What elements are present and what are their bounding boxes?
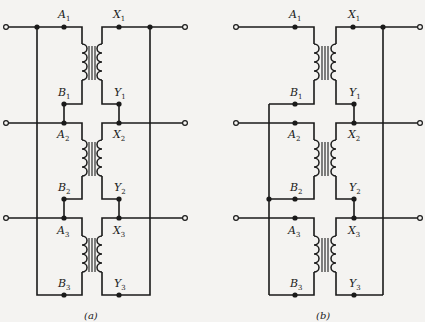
label-a1: A1	[288, 8, 301, 23]
transformer-2	[269, 123, 354, 199]
core-icon	[89, 46, 95, 80]
caption-b: (b)	[316, 310, 330, 321]
label-b1: B1	[289, 86, 303, 101]
transformer-1	[269, 27, 354, 104]
terminal	[418, 121, 423, 126]
label-a2: A2	[287, 128, 300, 143]
label-x1: X1	[347, 8, 360, 23]
transformer-3	[64, 218, 119, 295]
label-b2: B2	[57, 181, 71, 196]
terminal	[234, 216, 239, 221]
core-icon	[322, 142, 328, 176]
terminal	[183, 121, 188, 126]
terminal	[4, 25, 9, 30]
label-b1: B1	[57, 86, 71, 101]
terminal	[183, 25, 188, 30]
label-x2: X2	[347, 128, 360, 143]
label-a1: A1	[57, 8, 70, 23]
terminal	[183, 216, 188, 221]
terminal	[418, 25, 423, 30]
terminal	[234, 25, 239, 30]
panel-b: A1 X1 B1 Y1 A2 X2 B2 Y2 A3 X3 B3 Y3 (b)	[234, 8, 423, 321]
terminal	[4, 121, 9, 126]
terminal	[418, 216, 423, 221]
caption-a: (a)	[84, 310, 98, 321]
transformer-1	[64, 27, 119, 104]
label-x3: X3	[112, 224, 125, 239]
label-b3: B3	[289, 277, 303, 292]
label-y1: Y1	[349, 86, 361, 101]
label-y3: Y3	[114, 277, 126, 292]
transformer-2	[64, 123, 119, 199]
panel-a: A1 X1 B1 Y1 A2 X2 B2 Y2 A3 X3 B3 Y3 (a)	[4, 8, 188, 321]
core-icon	[322, 46, 328, 80]
transformer-3	[269, 218, 383, 295]
label-a3: A3	[287, 224, 300, 239]
label-x3: X3	[347, 224, 360, 239]
label-y1: Y1	[114, 86, 126, 101]
label-x2: X2	[112, 128, 125, 143]
label-b3: B3	[57, 277, 71, 292]
label-y2: Y2	[114, 181, 126, 196]
terminal	[234, 121, 239, 126]
transformer-diagram: A1 X1 B1 Y1 A2 X2 B2 Y2 A3 X3 B3 Y3 (a)	[0, 0, 425, 322]
core-icon	[322, 238, 328, 272]
label-b2: B2	[289, 181, 303, 196]
label-a2: A2	[56, 128, 69, 143]
label-a3: A3	[56, 224, 69, 239]
terminal	[4, 216, 9, 221]
core-icon	[89, 238, 95, 272]
label-x1: X1	[112, 8, 125, 23]
core-icon	[89, 142, 95, 176]
label-y3: Y3	[349, 277, 361, 292]
label-y2: Y2	[349, 181, 361, 196]
